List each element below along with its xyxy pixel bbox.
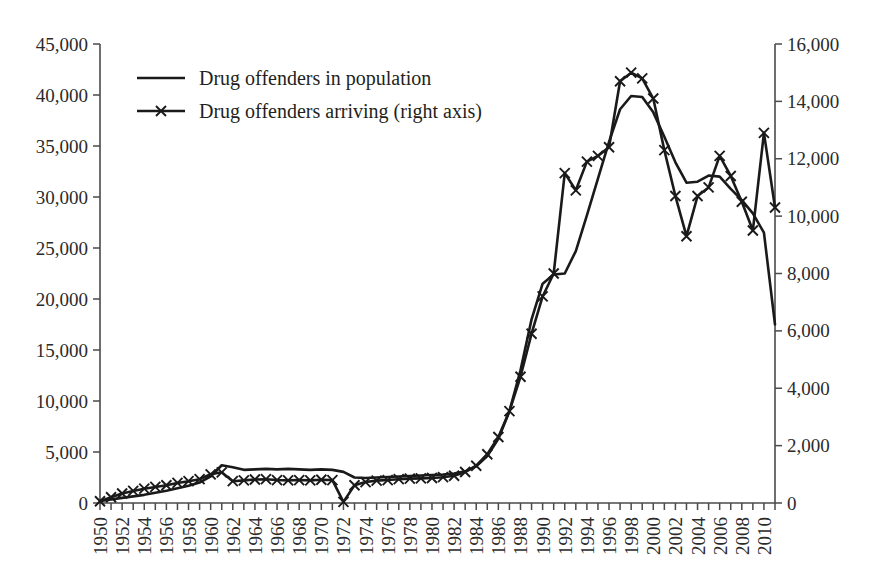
x-axis-tick-label: 1974: [356, 517, 377, 556]
left-axis-tick-label: 10,000: [36, 391, 88, 412]
left-axis-tick-label: 30,000: [36, 187, 88, 208]
right-axis: 02,0004,0006,0008,00010,00012,00014,0001…: [775, 34, 839, 514]
x-axis-tick-label: 2004: [688, 517, 709, 556]
left-axis-tick-label: 25,000: [36, 238, 88, 259]
x-axis-tick-label: 1950: [90, 517, 111, 555]
series-markers-1: [95, 68, 780, 507]
x-axis-tick-label: 1998: [621, 517, 642, 555]
data-point-marker: [726, 171, 736, 181]
right-axis-tick-label: 8,000: [787, 263, 830, 284]
x-axis-tick-label: 1956: [156, 517, 177, 555]
right-axis-tick-label: 6,000: [787, 320, 830, 341]
x-axis-tick-label: 2002: [665, 517, 686, 555]
x-axis-tick-label: 1990: [533, 517, 554, 555]
data-point-marker: [637, 73, 647, 83]
legend-label-0: Drug offenders in population: [199, 67, 431, 90]
series-line-0: [100, 96, 775, 501]
x-axis-tick-label: 1988: [510, 517, 531, 555]
x-axis-tick-label: 1996: [599, 517, 620, 555]
right-axis-tick-label: 2,000: [787, 435, 830, 456]
right-axis-tick-label: 16,000: [787, 34, 839, 55]
x-axis-tick-label: 1992: [555, 517, 576, 555]
x-axis-tick-label: 1984: [466, 517, 487, 556]
left-axis-tick-label: 5,000: [45, 442, 88, 463]
x-axis-tick-label: 1958: [179, 517, 200, 555]
chart-legend: Drug offenders in populationDrug offende…: [137, 67, 482, 123]
x-axis-tick-label: 1978: [400, 517, 421, 555]
x-axis-tick-label: 1962: [223, 517, 244, 555]
right-axis-tick-label: 4,000: [787, 378, 830, 399]
left-axis-tick-label: 20,000: [36, 289, 88, 310]
x-axis-tick-label: 2006: [710, 517, 731, 555]
x-axis-tick-label: 1994: [577, 517, 598, 556]
left-axis: 05,00010,00015,00020,00025,00030,00035,0…: [36, 34, 100, 514]
left-axis-tick-label: 45,000: [36, 34, 88, 55]
data-point-marker: [626, 68, 636, 78]
data-point-marker: [593, 151, 603, 161]
x-axis-tick-label: 1954: [134, 517, 155, 556]
x-axis-tick-label: 2008: [732, 517, 753, 555]
x-axis-tick-label: 1982: [444, 517, 465, 555]
data-point-marker: [471, 461, 481, 471]
x-axis-tick-label: 1972: [333, 517, 354, 555]
left-axis-tick-label: 15,000: [36, 340, 88, 361]
right-axis-tick-label: 0: [787, 493, 797, 514]
left-axis-tick-label: 0: [79, 493, 89, 514]
series-line-1: [100, 73, 775, 502]
right-axis-tick-label: 14,000: [787, 91, 839, 112]
legend-label-1: Drug offenders arriving (right axis): [199, 100, 482, 123]
x-axis-tick-label: 1986: [488, 517, 509, 555]
x-axis-tick-label: 1980: [422, 517, 443, 555]
right-axis-tick-label: 12,000: [787, 148, 839, 169]
x-axis-tick-label: 1966: [267, 517, 288, 555]
x-axis-tick-label: 1970: [311, 517, 332, 555]
x-axis-tick-label: 1960: [201, 517, 222, 555]
x-axis-tick-label: 1976: [378, 517, 399, 555]
x-axis: 1950195219541956195819601962196419661968…: [90, 503, 775, 555]
x-axis-tick-label: 1964: [245, 517, 266, 556]
chart-figure: 05,00010,00015,00020,00025,00030,00035,0…: [0, 0, 876, 579]
series-layer: [95, 68, 780, 507]
left-axis-tick-label: 40,000: [36, 85, 88, 106]
x-axis-tick-label: 1952: [112, 517, 133, 555]
right-axis-tick-label: 10,000: [787, 206, 839, 227]
x-axis-tick-label: 2000: [643, 517, 664, 555]
x-axis-tick-label: 1968: [289, 517, 310, 555]
left-axis-tick-label: 35,000: [36, 136, 88, 157]
line-chart: 05,00010,00015,00020,00025,00030,00035,0…: [0, 0, 876, 579]
x-axis-tick-label: 2010: [754, 517, 775, 555]
